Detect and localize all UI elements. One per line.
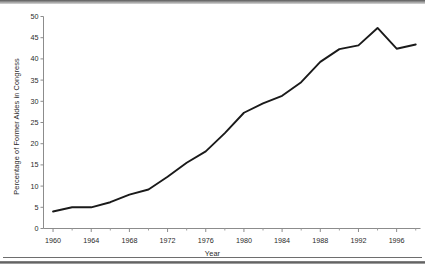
x-tick-label: 1964 [76, 236, 106, 245]
y-tick-label: 45 [17, 33, 39, 42]
line-chart-figure: Percentage of Former Aides in Congress Y… [0, 0, 425, 267]
x-tick-label: 1988 [305, 236, 335, 245]
y-tick-label: 40 [17, 54, 39, 63]
series-line-percentage-former-aides [53, 28, 416, 212]
scan-artifact-rule [3, 257, 422, 258]
x-tick-label: 1968 [114, 236, 144, 245]
y-tick-label: 30 [17, 97, 39, 106]
x-tick-label: 1960 [38, 236, 68, 245]
x-tick-label: 1992 [343, 236, 373, 245]
x-tick-label: 1996 [382, 236, 412, 245]
x-tick-label: 1972 [153, 236, 183, 245]
y-tick-label: 0 [17, 224, 39, 233]
y-tick-label: 50 [17, 12, 39, 21]
y-tick-label: 35 [17, 76, 39, 85]
x-tick-label: 1976 [191, 236, 221, 245]
x-axis-tick-marks [53, 229, 416, 233]
y-tick-label: 20 [17, 139, 39, 148]
scan-artifact-bottom-band [0, 261, 425, 264]
chart-axes [44, 17, 421, 229]
x-tick-label: 1980 [229, 236, 259, 245]
x-tick-label: 1984 [267, 236, 297, 245]
y-tick-label: 25 [17, 118, 39, 127]
data-series-group [53, 28, 416, 212]
chart-plot-svg [0, 0, 425, 267]
y-tick-label: 15 [17, 160, 39, 169]
y-tick-label: 5 [17, 203, 39, 212]
y-tick-label: 10 [17, 182, 39, 191]
